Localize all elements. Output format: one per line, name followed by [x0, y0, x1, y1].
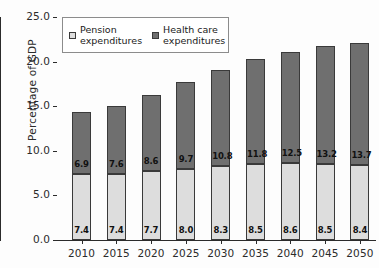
bar-group[interactable]: 8.310.8	[211, 0, 230, 240]
x-tick-mark	[325, 240, 326, 244]
bar-segment-health-care[interactable]: 7.6	[107, 106, 126, 174]
bar-value-label-health-care: 10.8	[212, 151, 229, 161]
bar-segment-pension[interactable]: 7.4	[107, 174, 126, 240]
bar-value-label-health-care: 6.9	[73, 159, 90, 169]
bar-value-label-health-care: 9.7	[177, 154, 194, 164]
bar-segment-pension[interactable]: 8.4	[350, 165, 369, 240]
bar-segment-pension[interactable]: 8.5	[316, 164, 335, 240]
bar-segment-health-care[interactable]: 11.8	[246, 59, 265, 164]
x-tick-mark	[290, 240, 291, 244]
bar-segment-pension[interactable]: 8.0	[176, 169, 195, 240]
y-tick-label: 0.0	[33, 233, 50, 245]
bar-value-label-pension: 8.5	[247, 225, 264, 235]
x-tick-mark	[186, 240, 187, 244]
bar-group[interactable]: 7.46.9	[72, 0, 91, 240]
bar-value-label-pension: 8.5	[317, 225, 334, 235]
y-tick-label: 20.0	[26, 55, 50, 67]
bar-segment-pension[interactable]: 7.7	[142, 171, 161, 240]
x-tick-mark	[256, 240, 257, 244]
bar-value-label-pension: 7.4	[108, 225, 125, 235]
y-tick-label: 25.0	[26, 10, 50, 22]
x-tick-mark	[360, 240, 361, 244]
bar-value-label-health-care: 12.5	[282, 148, 299, 158]
bar-value-label-pension: 8.0	[177, 225, 194, 235]
bar-segment-pension[interactable]: 7.4	[72, 174, 91, 240]
stacked-bar-chart: Percentage of GDP 0.05.010.015.020.025.0…	[0, 0, 379, 268]
bar-group[interactable]: 8.513.2	[316, 0, 335, 240]
bar-group[interactable]: 8.612.5	[281, 0, 300, 240]
bar-value-label-pension: 8.4	[351, 225, 368, 235]
bar-value-label-health-care: 13.7	[351, 150, 368, 160]
y-axis-tick: 5.0	[0, 195, 57, 196]
y-axis-tick: 20.0	[0, 62, 57, 63]
y-axis-tick: 0.0	[0, 240, 57, 241]
bar-group[interactable]: 7.47.6	[107, 0, 126, 240]
bar-segment-health-care[interactable]: 12.5	[281, 52, 300, 164]
bar-segment-pension[interactable]: 8.3	[211, 166, 230, 240]
bar-value-label-pension: 8.6	[282, 225, 299, 235]
y-axis-tick: 10.0	[0, 151, 57, 152]
bar-group[interactable]: 8.413.7	[350, 0, 369, 240]
bar-segment-health-care[interactable]: 13.7	[350, 43, 369, 165]
y-tick-label: 5.0	[33, 188, 50, 200]
bar-segment-health-care[interactable]: 9.7	[176, 82, 195, 169]
y-axis-tick: 15.0	[0, 106, 57, 107]
y-tick-label: 10.0	[26, 144, 50, 156]
bar-value-label-health-care: 13.2	[317, 149, 334, 159]
y-axis-tick: 25.0	[0, 17, 57, 18]
bar-segment-pension[interactable]: 8.6	[281, 163, 300, 240]
bar-group[interactable]: 7.78.6	[142, 0, 161, 240]
y-tick-label: 15.0	[26, 99, 50, 111]
y-axis-line	[0, 17, 1, 241]
bar-value-label-pension: 7.4	[73, 225, 90, 235]
x-tick-mark	[82, 240, 83, 244]
bar-value-label-pension: 8.3	[212, 225, 229, 235]
bar-value-label-health-care: 11.8	[247, 149, 264, 159]
bar-segment-health-care[interactable]: 10.8	[211, 70, 230, 166]
x-tick-label: 2050	[336, 247, 379, 259]
x-tick-mark	[116, 240, 117, 244]
x-tick-mark	[221, 240, 222, 244]
bar-value-label-health-care: 7.6	[108, 159, 125, 169]
bar-segment-health-care[interactable]: 8.6	[142, 95, 161, 172]
bar-segment-health-care[interactable]: 13.2	[316, 46, 335, 164]
bar-segment-pension[interactable]: 8.5	[246, 164, 265, 240]
x-tick-mark	[151, 240, 152, 244]
bar-value-label-health-care: 8.6	[143, 156, 160, 166]
bar-group[interactable]: 8.511.8	[246, 0, 265, 240]
x-axis-line	[57, 240, 376, 241]
bar-value-label-pension: 7.7	[143, 225, 160, 235]
bar-segment-health-care[interactable]: 6.9	[72, 112, 91, 174]
y-tick-mark	[53, 240, 57, 241]
bar-group[interactable]: 8.09.7	[176, 0, 195, 240]
